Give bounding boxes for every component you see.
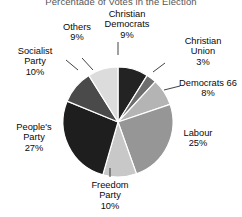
slice-value-democrats66: 8%	[176, 88, 240, 98]
slice-value-christian-democrats: 9%	[96, 30, 158, 40]
slice-label-labour: Labour 25%	[172, 128, 224, 149]
leader-line-others	[82, 58, 93, 70]
slice-label-christian-democrats-line2: Democrats	[96, 19, 158, 29]
slice-label-christian-union-line2: Union	[170, 46, 236, 56]
slice-label-socialist-party-line1: Socialist	[6, 46, 64, 56]
slice-label-christian-union: Christian Union 3%	[170, 36, 236, 67]
slice-label-labour-line1: Labour	[172, 128, 224, 138]
slice-label-christian-democrats: Christian Democrats 9%	[96, 9, 158, 40]
pie-slices-group	[63, 67, 173, 177]
leader-line-socialist-party	[66, 60, 78, 70]
slice-label-christian-union-line1: Christian	[170, 36, 236, 46]
slice-label-democrats66: Democrats 66 8%	[176, 78, 240, 99]
slice-value-others: 9%	[52, 32, 102, 42]
slice-label-peoples-party-line2: Party	[4, 132, 64, 142]
slice-label-christian-democrats-line1: Christian	[96, 9, 158, 19]
slice-value-labour: 25%	[172, 138, 224, 148]
slice-value-freedom-party: 10%	[82, 201, 138, 211]
slice-value-peoples-party: 27%	[4, 143, 64, 153]
slice-label-socialist-party: Socialist Party 10%	[6, 46, 64, 77]
slice-value-christian-union: 3%	[170, 57, 236, 67]
leader-line-christian-union	[153, 63, 165, 72]
slice-label-others: Others 9%	[52, 22, 102, 43]
slice-label-others-line1: Others	[52, 22, 102, 32]
slice-value-socialist-party: 10%	[6, 67, 64, 77]
slice-label-peoples-party: People's Party 27%	[4, 122, 64, 153]
slice-label-freedom-party-line2: Party	[82, 190, 138, 200]
slice-label-peoples-party-line1: People's	[4, 122, 64, 132]
slice-label-freedom-party-line1: Freedom	[82, 180, 138, 190]
slice-label-socialist-party-line2: Party	[6, 56, 64, 66]
slice-label-freedom-party: Freedom Party 10%	[82, 180, 138, 211]
pie-chart-figure: Percentage of Votes in the Election Chri…	[0, 0, 242, 217]
slice-label-democrats66-line1: Democrats 66	[176, 78, 240, 88]
